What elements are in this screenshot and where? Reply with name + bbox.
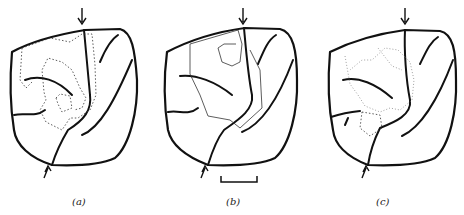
sulcus	[180, 76, 232, 95]
sulcus	[242, 60, 293, 132]
cortex-outline	[11, 29, 137, 165]
sulcus	[343, 79, 392, 98]
top-arrow-icon	[78, 8, 86, 24]
panel-label-b: (b)	[226, 196, 240, 207]
sulcus	[100, 35, 118, 62]
figure-canvas	[0, 0, 464, 215]
panel-label-c: (c)	[376, 196, 389, 207]
panel-label-a: (a)	[72, 196, 86, 207]
sulcus	[14, 110, 45, 115]
panel-b	[165, 8, 297, 182]
bottom-arrow-icon	[201, 166, 208, 178]
sulcus	[168, 108, 198, 112]
top-arrow-icon	[239, 8, 247, 24]
recording-path	[56, 94, 72, 112]
panel-a	[11, 8, 137, 178]
bottom-arrow-icon	[44, 166, 51, 178]
central-sulcus	[208, 28, 252, 165]
panel-c	[329, 8, 456, 178]
bottom-arrow-icon	[362, 166, 369, 178]
sulcus	[258, 35, 276, 64]
sulcus	[331, 111, 360, 125]
sulcus	[420, 37, 438, 64]
recording-path	[190, 30, 242, 66]
sulcus	[25, 78, 72, 95]
recording-path	[378, 48, 402, 70]
central-sulcus	[52, 30, 90, 165]
recording-path	[20, 48, 32, 88]
scale-bar	[221, 176, 257, 182]
central-sulcus	[368, 30, 410, 165]
top-arrow-icon	[401, 8, 409, 24]
